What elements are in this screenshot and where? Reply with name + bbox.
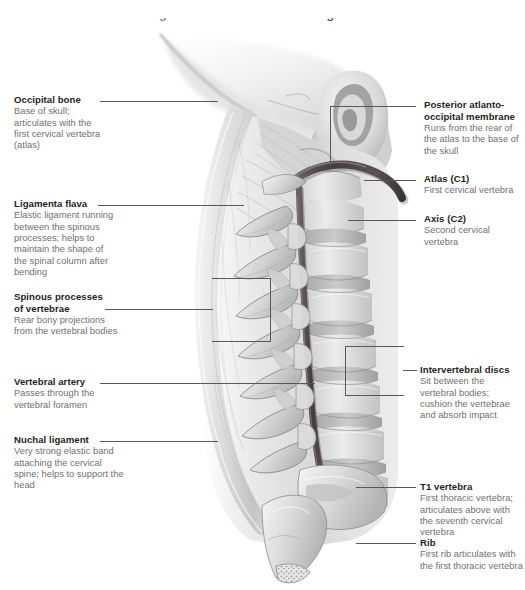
leader-atlas-c1 bbox=[364, 180, 416, 181]
callout-body: Sit between the vertebral bodies; cushio… bbox=[420, 376, 520, 422]
callout-heading: Occipital bone bbox=[14, 94, 104, 106]
callout-ligamenta-flava: Ligamenta flava Elastic ligament running… bbox=[14, 198, 118, 279]
leader-paom-vertical bbox=[330, 106, 331, 166]
callout-body: Elastic ligament running between the spi… bbox=[14, 210, 118, 278]
callout-heading: Rib bbox=[420, 537, 524, 549]
callout-atlas-c1: Atlas (C1) First cervical vertebra bbox=[424, 173, 520, 197]
callout-body: Very strong elastic band attaching the c… bbox=[14, 446, 126, 492]
leader-posterior-atlanto-occipital-membrane bbox=[330, 106, 416, 107]
bracket-spinous-processes bbox=[212, 278, 271, 342]
leader-spinous-processes bbox=[105, 309, 213, 310]
callout-body: First thoracic vertebra; articulates abo… bbox=[420, 493, 524, 539]
anatomical-figure: Right lateral view of cervical ligaments bbox=[0, 0, 525, 590]
callout-body: Runs from the rear of the atlas to the b… bbox=[424, 123, 520, 157]
callout-rib: Rib First rib articulates with the first… bbox=[420, 537, 524, 572]
callout-heading-line-1: Posterior atlanto- bbox=[424, 99, 520, 111]
callout-heading: Vertebral artery bbox=[14, 376, 112, 388]
callout-body: First cervical vertebra bbox=[424, 185, 520, 196]
callout-nuchal-ligament: Nuchal ligament Very strong elastic band… bbox=[14, 434, 126, 492]
callout-posterior-atlanto-occipital-membrane: Posterior atlanto- occipital membrane Ru… bbox=[424, 99, 520, 157]
callout-heading: Nuchal ligament bbox=[14, 434, 126, 446]
leader-ligamenta-flava bbox=[98, 205, 244, 206]
callout-body: Base of skull; articulates with the firs… bbox=[14, 106, 104, 152]
callout-heading: Axis (C2) bbox=[424, 213, 516, 225]
callout-heading: Intervertebral discs bbox=[420, 364, 520, 376]
callout-heading-line-2: occipital membrane bbox=[424, 111, 520, 123]
callout-axis-c2: Axis (C2) Second cervical vertebra bbox=[424, 213, 516, 248]
leader-intervertebral-discs bbox=[403, 370, 417, 371]
callout-heading-line-1: Spinous processes bbox=[14, 291, 120, 303]
callout-spinous-processes-of-vertebrae: Spinous processes of vertebrae Rear bony… bbox=[14, 291, 120, 338]
callout-vertebral-artery: Vertebral artery Passes through the vert… bbox=[14, 376, 112, 411]
leader-vertebral-artery bbox=[100, 383, 315, 384]
callout-body: Second cervical vertebra bbox=[424, 225, 516, 248]
callout-heading: Ligamenta flava bbox=[14, 198, 118, 210]
callout-body: Passes through the vertebral foramen bbox=[14, 388, 112, 411]
leader-t1-vertebra bbox=[356, 487, 416, 488]
bracket-intervertebral-discs bbox=[345, 346, 404, 396]
leader-axis-c2 bbox=[348, 220, 416, 221]
leader-occipital-bone bbox=[100, 101, 218, 102]
leader-rib bbox=[356, 543, 416, 544]
callout-body: Rear bony projections from the vertebral… bbox=[14, 315, 120, 338]
callout-intervertebral-discs: Intervertebral discs Sit between the ver… bbox=[420, 364, 520, 422]
callout-t1-vertebra: T1 vertebra First thoracic vertebra; art… bbox=[420, 481, 524, 539]
callout-occipital-bone: Occipital bone Base of skull; articulate… bbox=[14, 94, 104, 152]
callout-body: First rib articulates with the first tho… bbox=[420, 549, 524, 572]
callout-heading: T1 vertebra bbox=[420, 481, 524, 493]
callout-heading: Atlas (C1) bbox=[424, 173, 520, 185]
callout-heading-line-2: of vertebrae bbox=[14, 303, 120, 315]
